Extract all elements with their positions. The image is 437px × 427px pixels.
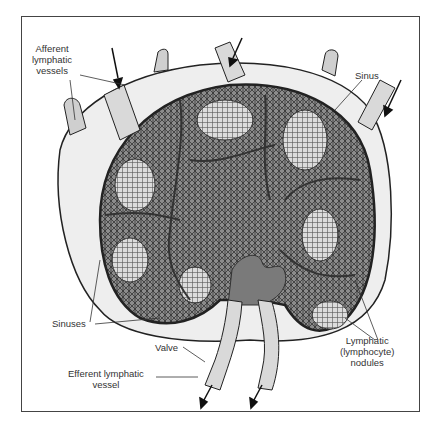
lymphatic-nodule bbox=[302, 209, 338, 261]
label-valve: Valve bbox=[155, 342, 178, 353]
label-afferent-vessels: Afferent lymphatic vessels bbox=[32, 43, 72, 76]
lymphatic-nodule bbox=[283, 110, 327, 170]
capsule-protrusion bbox=[154, 49, 168, 72]
capsule-protrusion bbox=[322, 50, 338, 76]
label-sinus: Sinus bbox=[355, 70, 379, 81]
lymphatic-nodule bbox=[112, 238, 148, 282]
label-efferent-vessel: Efferent lymphatic vessel bbox=[68, 368, 144, 390]
arrow-icon bbox=[200, 385, 262, 408]
lymphatic-nodule bbox=[197, 100, 253, 140]
label-lymphatic-nodules: Lymphatic (lymphocyte) nodules bbox=[340, 335, 394, 368]
lymphatic-nodule bbox=[312, 301, 348, 329]
label-sinuses: Sinuses bbox=[52, 318, 86, 329]
lymphatic-nodule bbox=[115, 159, 155, 211]
capsule-protrusion bbox=[64, 98, 86, 135]
lymphatic-nodule bbox=[179, 267, 211, 303]
